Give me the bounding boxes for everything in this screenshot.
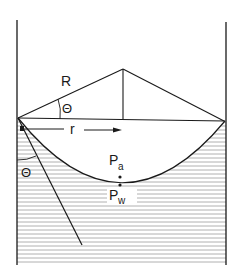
air-pressure-point: [118, 175, 121, 178]
label-pw-sub: w: [117, 195, 126, 206]
water-pressure-point: [118, 183, 121, 186]
label-theta-top: Θ: [62, 101, 72, 116]
chord-line: [18, 118, 225, 121]
label-theta-bottom: Θ: [21, 165, 31, 180]
label-pa-sub: a: [118, 161, 124, 172]
capillary-diagram: R Θ r Θ P a P w: [0, 0, 239, 279]
label-pw-main: P: [109, 187, 118, 203]
label-pa-main: P: [109, 152, 118, 168]
label-r: r: [70, 121, 75, 137]
label-R: R: [61, 73, 71, 89]
r-arrowhead: [113, 128, 122, 133]
radius-line-right: [123, 69, 224, 121]
angle-arc-top: [58, 99, 60, 119]
